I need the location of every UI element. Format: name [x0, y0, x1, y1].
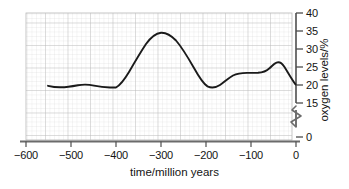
x-tick-label-minus100: −100 — [239, 149, 263, 161]
y-axis-title: oxygen levels/% — [318, 20, 330, 140]
y-tick-label-25: 25 — [306, 61, 318, 73]
y-tick-label-35: 35 — [306, 25, 318, 37]
x-axis — [20, 142, 300, 148]
x-axis-title: time/million years — [0, 166, 349, 178]
chart-gridlines — [26, 13, 292, 140]
x-tick-label-minus600: −600 — [14, 149, 38, 161]
x-tick-label-0: 0 — [293, 149, 299, 161]
oxygen-levels-chart: 40 35 30 25 20 15 0 −600 −500 −400 −300 … — [0, 0, 349, 189]
x-tick-label-minus500: −500 — [59, 149, 83, 161]
y-tick-label-0: 0 — [306, 131, 312, 143]
y-tick-label-20: 20 — [306, 79, 318, 91]
y-tick-label-30: 30 — [306, 43, 318, 55]
y-tick-label-40: 40 — [306, 7, 318, 19]
x-tick-label-minus400: −400 — [104, 149, 128, 161]
x-tick-label-minus200: −200 — [194, 149, 218, 161]
y-tick-label-15: 15 — [306, 97, 318, 109]
x-tick-label-minus300: −300 — [149, 149, 173, 161]
